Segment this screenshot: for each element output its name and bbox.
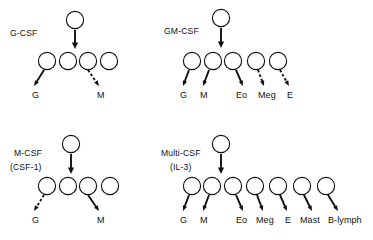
progenitor-circle-g-csf-2 bbox=[79, 52, 96, 69]
output-label-m-csf-g: G bbox=[32, 215, 39, 225]
panel-title-multi-csf: Multi-CSF bbox=[161, 148, 201, 158]
progenitor-circle-multi-csf-6 bbox=[317, 177, 334, 194]
output-arrow-multi-csf-mast-shaft bbox=[304, 195, 310, 207]
progenitor-circle-multi-csf-5 bbox=[293, 177, 310, 194]
stem-cell-circle-g-csf bbox=[66, 11, 83, 28]
stem-cell-circle-m-csf bbox=[62, 135, 79, 152]
progenitor-circle-multi-csf-3 bbox=[246, 177, 263, 194]
output-arrow-g-csf-m-head bbox=[94, 80, 99, 86]
output-label-g-csf-m: M bbox=[97, 90, 105, 100]
panel-title-g-csf: G-CSF bbox=[10, 28, 37, 38]
output-arrow-gm-csf-eo-shaft bbox=[236, 70, 241, 82]
output-arrow-m-csf-g-head bbox=[34, 205, 39, 211]
output-arrow-multi-csf-mast-head bbox=[308, 205, 312, 211]
output-arrow-m-csf-m-shaft bbox=[88, 195, 96, 207]
progenitor-circle-multi-csf-2 bbox=[224, 177, 241, 194]
output-arrow-multi-csf-b-lymph-shaft bbox=[328, 195, 335, 207]
output-label-multi-csf-m: M bbox=[200, 215, 208, 225]
stem-arrow-gm-csf-head bbox=[218, 42, 224, 48]
output-arrow-multi-csf-meg-shaft bbox=[257, 195, 261, 207]
stem-cell-circle-multi-csf bbox=[212, 135, 229, 152]
output-arrow-multi-csf-g-head bbox=[183, 205, 187, 211]
progenitor-circle-g-csf-1 bbox=[59, 52, 76, 69]
panel-subtitle-multi-csf: (IL-3) bbox=[170, 162, 191, 172]
output-label-gm-csf-e: E bbox=[287, 90, 293, 100]
output-label-g-csf-g: G bbox=[32, 90, 39, 100]
stem-arrow-m-csf-head bbox=[68, 168, 74, 174]
progenitor-circle-m-csf-3 bbox=[101, 177, 118, 194]
output-label-multi-csf-mast: Mast bbox=[300, 215, 320, 225]
output-arrow-gm-csf-meg-shaft bbox=[258, 70, 262, 82]
progenitor-circle-gm-csf-0 bbox=[183, 52, 200, 69]
output-label-multi-csf-eo: Eo bbox=[236, 215, 247, 225]
output-arrow-gm-csf-e-head bbox=[284, 80, 289, 86]
output-label-gm-csf-g: G bbox=[180, 90, 187, 100]
output-arrow-gm-csf-g-shaft bbox=[185, 70, 189, 82]
output-arrow-gm-csf-e-shaft bbox=[280, 70, 287, 82]
output-arrow-m-csf-g-shaft bbox=[37, 195, 44, 207]
progenitor-circle-multi-csf-1 bbox=[203, 177, 220, 194]
diagram-canvas: G-CSFGMGM-CSFGMEoMegEM-CSF(CSF-1)GMMulti… bbox=[0, 0, 373, 240]
output-arrow-multi-csf-m-head bbox=[203, 205, 207, 211]
output-arrow-multi-csf-e-shaft bbox=[280, 195, 285, 207]
panel-subtitle-m-csf: (CSF-1) bbox=[10, 162, 42, 172]
progenitor-circle-m-csf-2 bbox=[79, 177, 96, 194]
lineage-figure: G-CSFGMGM-CSFGMEoMegEM-CSF(CSF-1)GMMulti… bbox=[0, 0, 373, 240]
output-arrow-multi-csf-e-head bbox=[283, 205, 287, 211]
output-arrow-multi-csf-eo-shaft bbox=[236, 195, 241, 207]
output-arrow-multi-csf-g-shaft bbox=[185, 195, 189, 207]
progenitor-circle-gm-csf-3 bbox=[247, 52, 264, 69]
output-label-gm-csf-meg: Meg bbox=[258, 90, 276, 100]
panel-g-csf: G-CSFGM bbox=[10, 11, 118, 100]
stem-cell-circle-gm-csf bbox=[212, 9, 229, 26]
panel-multi-csf: Multi-CSF(IL-3)GMEoMegEMastB-lymph bbox=[161, 135, 362, 225]
stem-arrow-multi-csf-head bbox=[218, 168, 224, 174]
progenitor-circle-g-csf-0 bbox=[38, 52, 55, 69]
stem-arrow-g-csf-head bbox=[72, 43, 78, 49]
progenitor-circle-gm-csf-4 bbox=[269, 52, 286, 69]
output-arrow-g-csf-g-shaft bbox=[37, 70, 44, 82]
progenitor-circle-gm-csf-1 bbox=[204, 52, 221, 69]
output-arrow-gm-csf-meg-head bbox=[260, 80, 264, 86]
output-arrow-multi-csf-m-shaft bbox=[205, 195, 209, 207]
progenitor-circle-m-csf-0 bbox=[38, 177, 55, 194]
progenitor-circle-g-csf-3 bbox=[100, 52, 117, 69]
output-arrow-gm-csf-m-shaft bbox=[205, 70, 209, 82]
output-arrow-multi-csf-meg-head bbox=[259, 205, 263, 211]
panel-gm-csf: GM-CSFGMEoMegE bbox=[164, 9, 293, 100]
output-label-gm-csf-eo: Eo bbox=[236, 90, 247, 100]
output-label-multi-csf-b-lymph: B-lymph bbox=[328, 215, 362, 225]
panel-m-csf: M-CSF(CSF-1)GM bbox=[10, 135, 119, 225]
output-arrow-gm-csf-m-head bbox=[203, 80, 207, 86]
output-label-gm-csf-m: M bbox=[200, 90, 208, 100]
output-label-multi-csf-meg: Meg bbox=[256, 215, 274, 225]
output-arrow-gm-csf-eo-head bbox=[239, 80, 243, 86]
output-arrow-gm-csf-g-head bbox=[183, 80, 187, 86]
progenitor-circle-m-csf-1 bbox=[59, 177, 76, 194]
progenitor-circle-gm-csf-2 bbox=[224, 52, 241, 69]
output-label-m-csf-m: M bbox=[97, 215, 105, 225]
progenitor-circle-multi-csf-4 bbox=[269, 177, 286, 194]
output-label-multi-csf-e: E bbox=[285, 215, 291, 225]
output-arrow-g-csf-m-shaft bbox=[88, 70, 96, 82]
output-label-multi-csf-g: G bbox=[180, 215, 187, 225]
panel-title-m-csf: M-CSF bbox=[14, 148, 42, 158]
output-arrow-multi-csf-eo-head bbox=[239, 205, 243, 211]
progenitor-circle-multi-csf-0 bbox=[183, 177, 200, 194]
panel-title-gm-csf: GM-CSF bbox=[164, 26, 199, 36]
